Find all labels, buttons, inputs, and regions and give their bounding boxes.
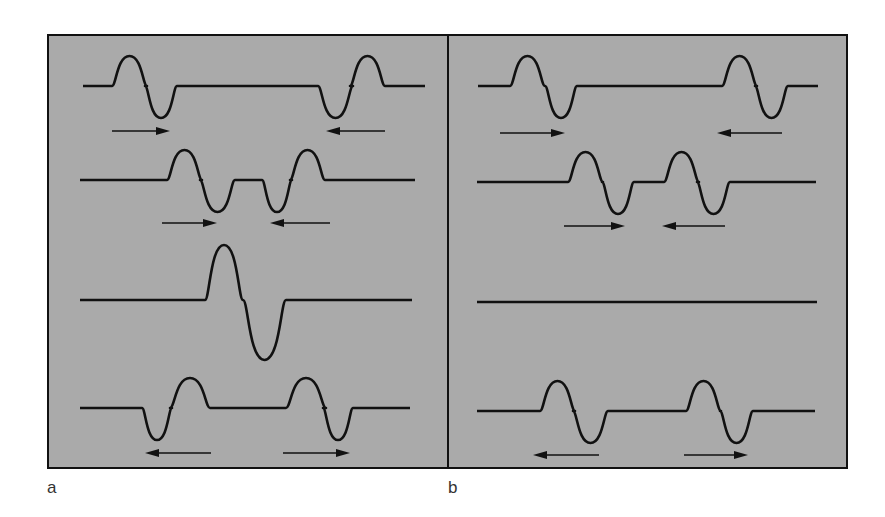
panel-b-background xyxy=(448,35,847,468)
panel-label-b: b xyxy=(448,478,457,498)
superposition-figure xyxy=(0,0,885,517)
panel-a-background xyxy=(48,35,448,468)
panel-label-a: a xyxy=(47,478,56,498)
